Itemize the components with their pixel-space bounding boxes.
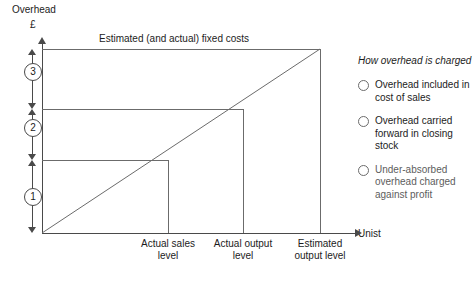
- overhead-absorption-diagram: Overhead £ Unist Estimated (and actual) …: [0, 0, 475, 285]
- band-number-1: 1: [24, 188, 42, 206]
- band-indicator-2: 2: [22, 109, 44, 160]
- legend-item-under-absorbed[interactable]: Under-absorbed overhead charged against …: [358, 164, 475, 202]
- x-tick-label-estimated-output: Estimated output level: [275, 238, 365, 262]
- circle-bullet-icon: [358, 116, 369, 127]
- legend-title: How overhead is charged: [358, 55, 475, 67]
- legend-item-label: Overhead included in cost of sales: [375, 79, 470, 103]
- x-tick-label-line1: Estimated: [275, 238, 365, 250]
- x-tick-label-line2: output level: [275, 250, 365, 262]
- band-indicator-3: 3: [22, 49, 44, 109]
- legend-item-label: Under-absorbed overhead charged against …: [375, 164, 456, 200]
- legend: How overhead is charged Overhead include…: [358, 55, 475, 212]
- circle-bullet-icon: [358, 80, 369, 91]
- arrow-down-icon: [28, 227, 36, 233]
- band-number-2: 2: [24, 119, 42, 137]
- band-number-3: 3: [24, 63, 42, 81]
- legend-item-label: Overhead carried forward in closing stoc…: [375, 115, 453, 151]
- legend-item-cost-of-sales[interactable]: Overhead included in cost of sales: [358, 79, 475, 104]
- legend-item-closing-stock[interactable]: Overhead carried forward in closing stoc…: [358, 115, 475, 153]
- band-indicator-1: 1: [22, 160, 44, 233]
- circle-bullet-icon: [358, 165, 369, 176]
